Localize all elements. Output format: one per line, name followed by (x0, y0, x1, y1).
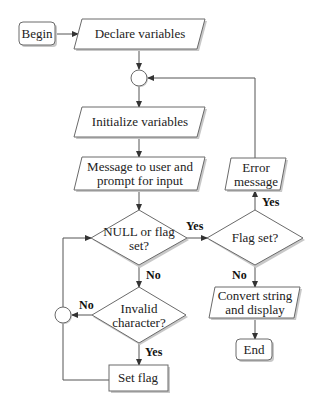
flag-set-decision: Flag set? (207, 210, 305, 268)
edge-label-null-no: No (146, 268, 161, 282)
message-label-line1: Message to user and (87, 159, 193, 174)
edge-label-null-yes: Yes (186, 219, 204, 233)
edge-label-flag-no: No (232, 268, 247, 282)
error-label-line1: Error (242, 160, 270, 175)
end-node: End (236, 339, 274, 362)
edge-label-invalid-yes: Yes (145, 345, 163, 359)
invalid-character-decision: Invalid character? (92, 287, 188, 345)
edge-merge-null (63, 238, 91, 307)
null-or-flag-decision: NULL or flag set? (91, 210, 189, 268)
flowchart: Begin Declare variables Initialize varia… (0, 0, 322, 406)
set-flag-node: Set flag (109, 365, 170, 393)
merge-connector-left (55, 307, 72, 324)
error-label-line2: message (234, 174, 278, 189)
convert-label-line2: and display (225, 302, 285, 317)
end-label: End (244, 342, 265, 357)
invalid-check-line2: character? (112, 315, 166, 330)
null-check-line1: NULL or flag (103, 224, 175, 239)
initialize-variables-node: Initialize variables (74, 107, 207, 139)
message-label-line2: prompt for input (97, 173, 183, 188)
set-flag-label: Set flag (118, 370, 159, 385)
convert-display-node: Convert string and display (209, 287, 302, 320)
initialize-label: Initialize variables (92, 114, 188, 129)
convert-label-line1: Convert string (218, 288, 293, 303)
declare-label: Declare variables (95, 26, 186, 41)
begin-node: Begin (19, 22, 57, 47)
invalid-check-line1: Invalid (121, 301, 158, 316)
flag-check-label: Flag set? (232, 230, 279, 245)
error-message-node: Error message (225, 158, 288, 192)
begin-label: Begin (21, 26, 53, 41)
edge-setflag-merge (63, 323, 109, 380)
edge-label-flag-yes: Yes (262, 195, 280, 209)
merge-connector-top (131, 70, 148, 87)
message-prompt-node: Message to user and prompt for input (74, 157, 207, 192)
null-check-line2: set? (129, 238, 149, 253)
declare-variables-node: Declare variables (74, 19, 207, 51)
edge-label-invalid-no: No (79, 298, 94, 312)
